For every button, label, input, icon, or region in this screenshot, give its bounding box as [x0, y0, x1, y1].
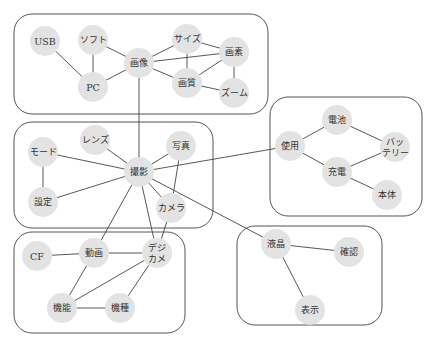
- node-digicame: デジカメ: [142, 238, 172, 268]
- node-label: テリー: [382, 148, 409, 158]
- node-size: サイズ: [172, 24, 202, 54]
- node-denchi: 電池: [322, 105, 352, 135]
- node-cf: CF: [22, 241, 52, 271]
- node-label: CF: [30, 251, 44, 262]
- node-gazou: 画像: [124, 48, 154, 78]
- node-label: 設定: [34, 196, 52, 207]
- node-label: 表示: [301, 304, 319, 315]
- node-label: PC: [86, 82, 100, 93]
- node-label: ソフト: [80, 35, 107, 45]
- node-label: モード: [30, 147, 57, 157]
- node-label: 機能: [53, 302, 71, 313]
- node-label: 撮影: [130, 166, 148, 177]
- node-label: 動画: [85, 248, 103, 258]
- node-douga: 動画: [79, 238, 109, 268]
- node-gashitsu: 画質: [172, 68, 202, 98]
- co-occurrence-network-diagram: USBソフト画像PCサイズ画素画質ズームレンズ写真モード撮影設定カメラ電池使用バ…: [0, 0, 436, 349]
- node-label: 充電: [328, 166, 346, 177]
- node-label: 画質: [178, 77, 196, 88]
- node-label: ズーム: [221, 87, 248, 98]
- node-label: カメ: [148, 254, 166, 264]
- node-label: 確認: [340, 246, 358, 257]
- node-zoom: ズーム: [219, 78, 249, 108]
- node-kishu: 機種: [105, 293, 135, 323]
- node-satsuei: 撮影: [124, 157, 154, 187]
- node-label: カメラ: [158, 203, 185, 213]
- node-label: 使用: [281, 140, 299, 151]
- node-battery: バッテリー: [380, 132, 410, 162]
- node-kakunin: 確認: [334, 237, 364, 267]
- node-soft: ソフト: [78, 25, 108, 55]
- node-lens: レンズ: [80, 125, 110, 155]
- node-hontai: 本体: [372, 180, 402, 210]
- node-shiyou: 使用: [275, 131, 305, 161]
- node-label: 電池: [328, 114, 346, 125]
- node-ekishou: 液晶: [261, 229, 291, 259]
- node-label: バッ: [386, 137, 404, 147]
- node-label: サイズ: [174, 33, 201, 44]
- node-layer: USBソフト画像PCサイズ画素画質ズームレンズ写真モード撮影設定カメラ電池使用バ…: [22, 24, 410, 325]
- node-kinou: 機能: [47, 293, 77, 323]
- node-label: USB: [34, 36, 56, 47]
- node-hyouji: 表示: [295, 295, 325, 325]
- node-settei: 設定: [28, 187, 58, 217]
- node-label: 写真: [172, 140, 190, 151]
- node-shashin: 写真: [166, 131, 196, 161]
- node-label: デジ: [148, 242, 166, 253]
- node-usb: USB: [30, 26, 60, 56]
- edge-satsuei-shiyou: [139, 146, 290, 172]
- node-label: 機種: [111, 302, 129, 313]
- node-mode: モード: [28, 137, 58, 167]
- node-label: 画素: [225, 46, 243, 57]
- node-label: 本体: [378, 189, 396, 200]
- node-pc: PC: [78, 72, 108, 102]
- node-camera: カメラ: [156, 193, 186, 223]
- node-label: レンズ: [82, 134, 109, 145]
- node-gaso: 画素: [219, 37, 249, 67]
- node-juuden: 充電: [322, 157, 352, 187]
- node-label: 画像: [130, 57, 148, 68]
- node-label: 液晶: [267, 238, 285, 249]
